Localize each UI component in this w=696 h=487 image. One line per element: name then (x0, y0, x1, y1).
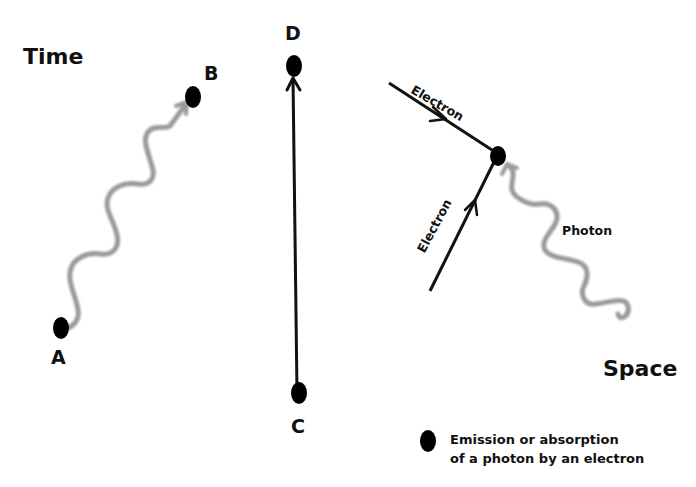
legend-line-1: Emission or absorption (450, 430, 644, 449)
diagram-svg (0, 0, 696, 487)
diagram-canvas: Time Space A B C D Electron Electron Pho… (0, 0, 696, 487)
photon-wave-vertex (502, 164, 628, 318)
photon-path-a-to-b (62, 102, 187, 328)
point-label-d: D (285, 22, 301, 44)
event-dot-vertex (490, 146, 506, 166)
legend-dot-icon (420, 430, 436, 452)
event-dot-c (291, 382, 307, 404)
legend-line-2: of a photon by an electron (450, 449, 644, 468)
point-label-c: C (291, 415, 305, 437)
event-dot-a (53, 317, 69, 339)
legend-text: Emission or absorption of a photon by an… (450, 430, 644, 468)
electron-worldline-c-to-d (287, 78, 300, 392)
space-axis-label: Space (603, 356, 677, 381)
time-axis-label: Time (23, 44, 83, 69)
point-label-a: A (51, 346, 66, 368)
electron-line-upper (389, 83, 492, 150)
event-dot-b (185, 86, 201, 108)
event-dot-d (286, 55, 302, 77)
point-label-b: B (204, 62, 218, 84)
photon-label: Photon (562, 223, 612, 238)
